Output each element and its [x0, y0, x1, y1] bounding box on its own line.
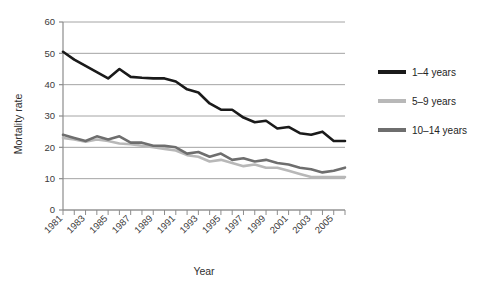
y-axis: [59, 22, 63, 210]
x-tick-label: 1995: [200, 213, 223, 236]
x-tick-label: 1999: [245, 213, 268, 236]
legend-label: 5–9 years: [412, 96, 456, 107]
y-tick-label: 40: [44, 79, 55, 90]
x-axis-title: Year: [193, 265, 215, 277]
x-tick-label: 1985: [87, 213, 110, 236]
x-tick-label: 2003: [290, 213, 313, 236]
x-tick-label: 2001: [267, 213, 290, 236]
x-tick-label: 1983: [64, 213, 87, 236]
y-tick-label: 60: [44, 16, 55, 27]
y-tick-label: 50: [44, 48, 55, 59]
gridlines: [63, 22, 345, 210]
legend-label: 1–4 years: [412, 67, 456, 78]
y-tick-labels: 6050403020100: [44, 16, 55, 215]
x-tick-label: 1997: [222, 213, 245, 236]
x-tick-label: 1991: [154, 213, 177, 236]
series-line: [63, 138, 345, 177]
legend-label: 10–14 years: [412, 125, 467, 136]
legend: 1–4 years5–9 years10–14 years: [378, 67, 467, 136]
series-line: [63, 52, 345, 141]
x-tick-labels: 1981198319851987198919911993199519971999…: [42, 213, 335, 236]
chart-canvas: 6050403020100 19811983198519871989199119…: [0, 0, 485, 286]
x-tick-label: 1987: [109, 213, 132, 236]
y-tick-label: 30: [44, 110, 55, 121]
x-tick-label: 2005: [312, 213, 335, 236]
x-tick-label: 1993: [177, 213, 200, 236]
mortality-rate-line-chart: 6050403020100 19811983198519871989199119…: [0, 0, 485, 286]
x-tick-label: 1989: [132, 213, 155, 236]
x-tick-label: 1981: [42, 213, 65, 236]
data-series-group: [63, 52, 345, 177]
y-tick-label: 10: [44, 173, 55, 184]
y-tick-label: 20: [44, 142, 55, 153]
y-axis-title: Mortality rate: [12, 94, 24, 155]
